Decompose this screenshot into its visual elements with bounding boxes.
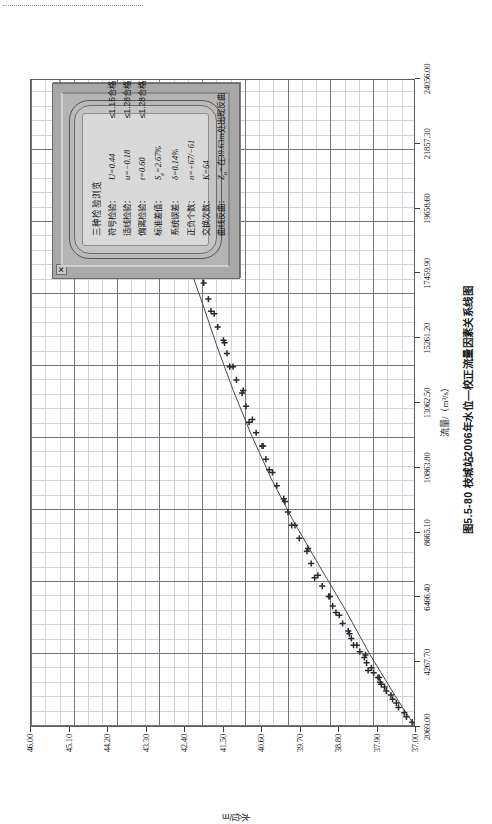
data-point-marker <box>308 560 314 566</box>
x-tick-label: 4267.70 <box>422 649 432 676</box>
x-tick-label: 10863.80 <box>422 452 432 483</box>
test-result-label: 符号检验： <box>105 180 119 236</box>
x-tick-label: 2069.00 <box>422 714 432 741</box>
data-point-marker <box>233 377 239 383</box>
test-result-row: 曲线反曲：Zo=在39.63m处出现反曲 <box>214 122 232 236</box>
y-tick-label: 45.10 <box>64 734 74 752</box>
data-point-marker <box>253 430 259 436</box>
y-tick-label: 43.30 <box>141 734 151 752</box>
x-tick <box>415 532 420 533</box>
test-result-label: 偏离检验： <box>135 180 149 236</box>
test-result-label: 系统误差： <box>168 180 182 236</box>
dialog-outer-rounded-frame: 三种检验浏览 符号检验：U=0.44≤1.15合格适线检验：u=−0.18≤1.… <box>69 100 222 259</box>
data-point-marker <box>296 535 302 541</box>
data-point-marker <box>260 443 266 449</box>
y-tick <box>261 727 262 732</box>
data-point-marker <box>340 620 346 626</box>
test-result-value: K=64 <box>200 118 214 180</box>
test-result-value: n=+67/−61 <box>185 118 199 180</box>
data-point-marker <box>350 642 356 648</box>
dialog-inner-rounded-frame: 三种检验浏览 符号检验：U=0.44≤1.15合格适线检验：u=−0.18≤1.… <box>74 105 217 254</box>
test-result-row: 标准差值：Se=2.67% <box>151 122 169 236</box>
data-point-marker <box>274 483 280 489</box>
test-result-value: Zo=在39.63m处出现反曲 <box>215 93 232 180</box>
data-point-marker <box>330 603 336 609</box>
data-point-marker <box>224 350 230 356</box>
y-tick <box>415 727 416 732</box>
test-result-row: 交换次数：K=64 <box>199 122 214 236</box>
test-result-row: 系统误差：δ=0.14% <box>168 122 183 236</box>
x-tick <box>415 143 420 144</box>
x-tick-label: 17459.90 <box>422 258 432 289</box>
x-axis-ticks: 2069.004267.706466.408665.1010863.801306… <box>415 79 416 727</box>
data-point-marker <box>215 324 221 330</box>
y-tick <box>146 727 147 732</box>
y-tick-label: 37.00 <box>410 734 420 752</box>
test-result-row: 适线检验：u=−0.18≤1.28合格 <box>120 122 135 236</box>
test-result-row: 正负个数：n=+67/−61 <box>184 122 199 236</box>
x-tick <box>415 337 420 338</box>
dialog-bevel-frame: 三种检验浏览 符号检验：U=0.44≤1.15合格适线检验：u=−0.18≤1.… <box>61 92 230 267</box>
data-point-marker <box>363 660 369 666</box>
data-point-marker <box>201 280 207 286</box>
x-tick-label: 19658.60 <box>422 193 432 224</box>
test-result-value: U=0.44 <box>106 118 120 180</box>
y-tick <box>30 727 31 732</box>
y-tick-label: 41.50 <box>218 734 228 752</box>
three-tests-dialog[interactable]: ✕ 三种检验浏览 符号检验：U=0.44≤1.15合格适线检验：u=−0.18≤… <box>52 83 240 279</box>
test-result-value: δ=0.14% <box>169 118 183 180</box>
data-point-marker <box>357 649 363 655</box>
x-tick <box>415 661 420 662</box>
test-result-label: 正负个数： <box>184 180 198 236</box>
x-tick <box>415 208 420 209</box>
figure-caption: 图5.5-80 枝城站2006年水位—校正流量因素关系线图 <box>460 0 475 820</box>
data-point-marker <box>243 403 249 409</box>
test-result-row: 偏离检验：t=0.60≤1.28合格 <box>135 122 150 236</box>
test-result-criterion: ≤1.15合格 <box>105 81 119 118</box>
test-result-criterion: ≤1.28合格 <box>135 81 149 118</box>
data-point-marker <box>327 593 333 599</box>
dialog-title: 三种检验浏览 <box>90 122 102 236</box>
test-results-list: 符号检验：U=0.44≤1.15合格适线检验：u=−0.18≤1.28合格偏离检… <box>105 122 232 236</box>
y-tick-label: 39.70 <box>295 734 305 752</box>
x-tick <box>415 402 420 403</box>
data-point-marker <box>227 364 233 370</box>
y-tick-label: 46.00 <box>25 734 35 752</box>
y-tick-label: 38.80 <box>333 734 343 752</box>
y-tick <box>377 727 378 732</box>
y-tick-label: 40.60 <box>256 734 266 752</box>
data-point-marker <box>289 522 295 528</box>
test-result-value: u=−0.18 <box>121 118 135 180</box>
y-tick-label: 37.90 <box>372 734 382 752</box>
test-result-label: 交换次数： <box>199 180 213 236</box>
data-point-marker <box>319 583 325 589</box>
x-tick-label: 13062.50 <box>422 388 432 419</box>
test-result-value: t=0.60 <box>136 118 150 180</box>
x-tick <box>415 467 420 468</box>
test-result-criterion: ≤1.28合格 <box>120 81 134 118</box>
x-tick-label: 6466.40 <box>422 584 432 611</box>
test-result-value: Se=2.67% <box>152 118 169 180</box>
x-tick-label: 21857.30 <box>422 128 432 159</box>
test-result-label: 适线检验： <box>120 180 134 236</box>
test-result-row: 符号检验：U=0.44≤1.15合格 <box>105 122 120 236</box>
test-result-label: 标准差值： <box>151 180 165 236</box>
dialog-content-panel: 三种检验浏览 符号检验：U=0.44≤1.15合格适线检验：u=−0.18≤1.… <box>82 113 209 246</box>
y-tick-label: 44.20 <box>102 734 112 752</box>
x-tick-label: 24056.00 <box>422 64 432 95</box>
y-tick <box>223 727 224 732</box>
y-tick <box>184 727 185 732</box>
x-tick <box>415 78 420 79</box>
y-axis-ticks: 37.0037.9038.8039.7040.6041.5042.4043.30… <box>30 726 415 727</box>
test-result-label: 曲线反曲： <box>214 180 228 236</box>
x-tick-label: 15261.20 <box>422 323 432 354</box>
x-tick <box>415 596 420 597</box>
x-tick <box>415 272 420 273</box>
y-tick-label: 42.40 <box>179 734 189 752</box>
y-tick <box>69 727 70 732</box>
x-tick-label: 8665.10 <box>422 519 432 546</box>
y-tick <box>107 727 108 732</box>
y-tick <box>300 727 301 732</box>
